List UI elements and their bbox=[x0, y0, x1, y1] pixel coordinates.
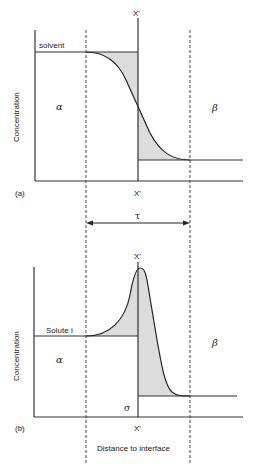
y-axis-label-b: Concentration bbox=[12, 331, 21, 381]
solute-label: Solute i bbox=[46, 326, 73, 335]
x-axis-label: Distance to interface bbox=[97, 444, 170, 453]
shaded-excess-left-b bbox=[86, 268, 138, 336]
tau-arrowhead-right bbox=[183, 221, 190, 226]
panel-b-tag: (b) bbox=[15, 424, 25, 433]
interface-label-bottom-b: X' bbox=[134, 424, 141, 433]
tau-label: τ bbox=[135, 211, 140, 221]
y-axis-label-a: Concentration bbox=[12, 92, 21, 142]
interface-label-top-b: X' bbox=[134, 252, 141, 261]
interface-label-bottom-a: X' bbox=[134, 189, 141, 198]
phase-alpha-label-b: α bbox=[56, 354, 63, 365]
solvent-label: solvent bbox=[39, 41, 65, 50]
panel-b: Solute i X' X' α β σ (b) Concentration bbox=[12, 252, 243, 433]
tau-arrowhead-left bbox=[86, 221, 93, 226]
interface-label-top-a: X' bbox=[133, 9, 140, 18]
interface-concentration-diagram: solvent X' X' α β (a) Concentration τ So… bbox=[0, 0, 256, 464]
panel-a-tag: (a) bbox=[15, 189, 25, 198]
width-indicator: τ bbox=[86, 211, 190, 226]
phase-beta-label-b: β bbox=[211, 337, 218, 348]
phase-beta-label-a: β bbox=[211, 102, 218, 113]
excess-sigma-label: σ bbox=[124, 403, 130, 413]
phase-alpha-label-a: α bbox=[56, 101, 63, 112]
